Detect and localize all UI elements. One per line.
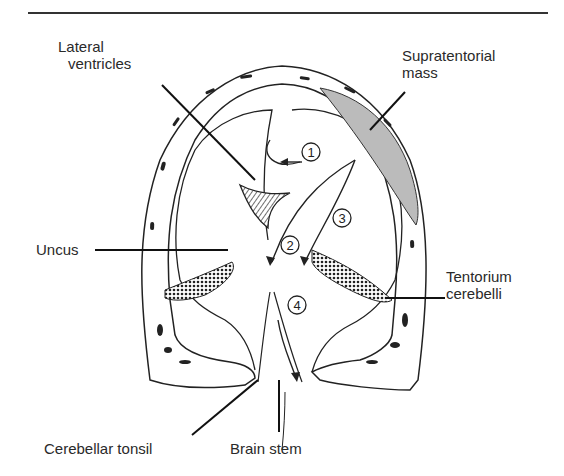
lateral-ventricle [240,185,290,228]
label-supratentorial-mass: Supratentorial mass [402,47,495,81]
tentorium-right [312,250,392,302]
label-cerebellar-tonsil: Cerebellar tonsil [44,440,152,457]
label-brain-stem: Brain stem [230,440,302,457]
marker-3: 3 [338,211,345,226]
label-line: ventricles [58,55,131,72]
label-tentorium-cerebelli: Tentorium cerebelli [446,268,512,302]
marker-2: 2 [286,238,293,253]
marker-4: 4 [293,298,300,313]
tentorium-left [165,262,233,300]
label-uncus: Uncus [36,241,79,258]
label-line: cerebelli [446,285,512,302]
label-line: Lateral [58,38,131,55]
label-lateral-ventricles: Lateral ventricles [58,38,131,72]
label-line: Supratentorial [402,47,495,64]
label-line: Tentorium [446,268,512,285]
marker-1: 1 [307,145,314,160]
label-line: mass [402,64,495,81]
